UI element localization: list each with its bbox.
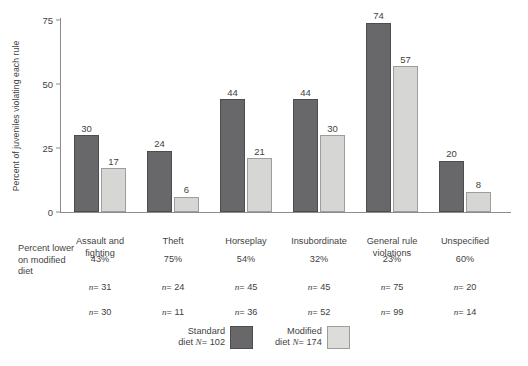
n-value: = 11	[167, 307, 184, 317]
bar-modified: 57	[393, 66, 418, 212]
y-tick-label: 75	[42, 15, 60, 26]
bar-modified: 17	[101, 168, 126, 212]
bar-standard: 44	[220, 99, 245, 212]
bar-group: 246	[147, 20, 199, 212]
n-value: = 45	[239, 282, 257, 292]
y-tick-label: 0	[48, 207, 60, 218]
bar-group: 208	[439, 20, 491, 212]
bar-value-label: 30	[81, 123, 92, 134]
bar-value-label: 24	[154, 138, 165, 149]
bar-value-label: 30	[327, 123, 338, 134]
bar-group: 4430	[293, 20, 345, 212]
legend-swatch-standard	[230, 326, 253, 349]
bar-value-label: 8	[476, 179, 481, 190]
bar-value-label: 44	[227, 87, 238, 98]
n-value: = 31	[93, 282, 111, 292]
legend-item-standard-diet: Standard diet N= 102	[178, 326, 253, 349]
bar-group: 4421	[220, 20, 272, 212]
bar-value-label: 44	[300, 87, 311, 98]
bar-standard: 74	[366, 23, 391, 212]
legend-swatch-modified	[327, 326, 350, 349]
legend-label-modified: Modified diet N= 174	[275, 326, 322, 349]
bar-chart-figure: Percent of juveniles violating each rule…	[0, 0, 528, 366]
bar-value-label: 20	[446, 148, 457, 159]
n-value: = 36	[239, 307, 257, 317]
bar-value-label: 17	[108, 156, 119, 167]
bar-value-label: 57	[400, 54, 411, 65]
bar-modified: 6	[174, 197, 199, 212]
y-tick-label: 50	[42, 79, 60, 90]
cat-line1: Unspecified	[409, 236, 521, 248]
n-value: = 24	[166, 282, 184, 292]
bar-modified: 8	[466, 192, 491, 212]
bar-value-label: 21	[254, 146, 265, 157]
n-value: = 99	[385, 307, 403, 317]
n-value: = 52	[312, 307, 330, 317]
bar-standard: 44	[293, 99, 318, 212]
n-value: = 30	[93, 307, 111, 317]
x-axis-line	[60, 212, 511, 213]
n-value: = 45	[312, 282, 330, 292]
legend-item-modified-diet: Modified diet N= 174	[275, 326, 350, 349]
n-value: = 75	[385, 282, 403, 292]
n-value: = 20	[458, 282, 476, 292]
percent-lower-value: 60%	[409, 254, 521, 264]
bar-standard: 30	[74, 135, 99, 212]
plot-area: 0255075 3017246442144307457208 Assault a…	[60, 20, 510, 212]
bar-group: 3017	[74, 20, 126, 212]
n-standard-value: n= 20	[409, 282, 521, 292]
n-modified-value: n= 14	[409, 307, 521, 317]
legend-label-standard: Standard diet N= 102	[178, 326, 225, 349]
y-tick-label: 25	[42, 143, 60, 154]
n-value: = 14	[458, 307, 476, 317]
x-category-label: Unspecified	[409, 236, 521, 248]
bar-modified: 21	[247, 158, 272, 212]
bar-group: 7457	[366, 20, 418, 212]
bar-standard: 20	[439, 161, 464, 212]
y-axis-title: Percent of juveniles violating each rule	[9, 20, 23, 212]
bar-value-label: 74	[373, 10, 384, 21]
bar-value-label: 6	[184, 184, 189, 195]
bar-standard: 24	[147, 151, 172, 212]
bar-modified: 30	[320, 135, 345, 212]
chart-legend: Standard diet N= 102 Modified diet N= 17…	[0, 322, 528, 352]
